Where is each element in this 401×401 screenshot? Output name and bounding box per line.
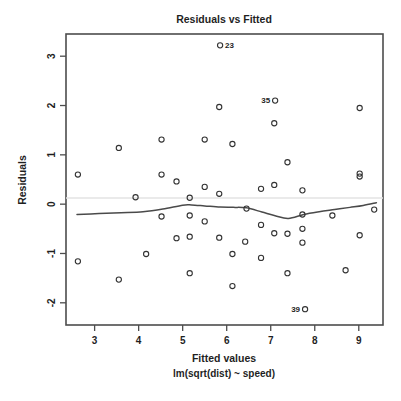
x-tick-label: 5: [180, 335, 186, 346]
x-axis-subtitle: lm(sqrt(dist) ~ speed): [173, 368, 275, 379]
y-axis-title: Residuals: [16, 155, 28, 205]
plot-canvas: Residuals vs Fitted 3456789 -2-10123 233…: [0, 0, 401, 401]
x-tick-label: 3: [92, 335, 98, 346]
y-tick-label: 1: [47, 152, 58, 158]
point-label: 35: [261, 96, 270, 105]
x-tick-label: 6: [224, 335, 230, 346]
residual-plot-figure: Residuals vs Fitted 3456789 -2-10123 233…: [0, 0, 401, 401]
x-tick-label: 8: [312, 335, 318, 346]
y-tick-label: -1: [47, 249, 58, 258]
point-label: 23: [225, 41, 234, 50]
figure-background: [0, 0, 401, 401]
y-tick-label: 2: [47, 102, 58, 108]
x-tick-label: 9: [356, 335, 362, 346]
point-label: 39: [291, 305, 300, 314]
y-tick-label: 0: [47, 201, 58, 207]
x-axis-title: Fitted values: [192, 352, 256, 364]
y-tick-label: -2: [47, 298, 58, 307]
x-tick-label: 7: [268, 335, 274, 346]
y-tick-label: 3: [47, 53, 58, 59]
x-tick-label: 4: [136, 335, 142, 346]
plot-title: Residuals vs Fitted: [176, 13, 272, 25]
